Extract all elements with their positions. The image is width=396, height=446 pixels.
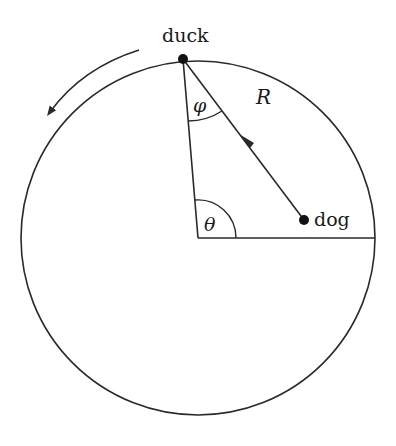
- radius-label: R: [255, 85, 271, 109]
- duck-radius-line: [183, 59, 198, 238]
- duck-label: duck: [162, 24, 209, 46]
- theta-angle-arc: [195, 200, 236, 238]
- counterclockwise-arrow-icon: [50, 50, 139, 112]
- theta-label: θ: [204, 213, 216, 235]
- r-direction-arrow-icon: [239, 134, 254, 148]
- dog-point: [299, 215, 309, 225]
- duck-point: [178, 54, 188, 64]
- dog-label: dog: [314, 208, 350, 230]
- duck-dog-diagram: duck dog R φ θ: [0, 0, 396, 446]
- phi-label: φ: [193, 94, 207, 116]
